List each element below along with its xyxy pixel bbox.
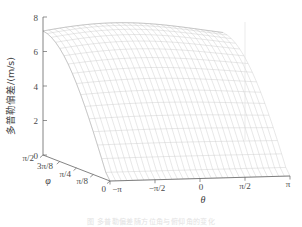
theta-axis-label: θ	[201, 194, 206, 205]
theta-tick-label-0: 0	[199, 182, 204, 192]
figure-caption: 图 多普勒偏差随方位角与俯仰角的变化	[0, 217, 302, 227]
z-axis-label: 多普勒偏差/(m/s)	[5, 57, 16, 135]
phi-tick-label-pi-over-4: π/4	[59, 169, 71, 179]
z-tick-label-4: 4	[34, 82, 39, 92]
phi-tick-label-pi-over-8: π/8	[76, 176, 88, 186]
z-tick-label-8: 8	[34, 13, 39, 23]
z-tick-label-6: 6	[34, 47, 39, 57]
phi-tick-label-3pi-over-8: 3π/8	[37, 161, 54, 171]
phi-tick-label-0: 0	[102, 184, 107, 194]
surface-mesh	[43, 23, 290, 181]
phi-tick-label-pi-over-2: π/2	[22, 153, 34, 163]
theta-tick-label-pi-over-2: π/2	[239, 181, 251, 191]
z-tick-label-0: 0	[34, 151, 39, 161]
theta-tick-label-pi: π	[286, 179, 291, 189]
theta-tick-label-neg-pi-over-2: −π/2	[149, 183, 166, 193]
plot-svg: 8 6 4 2 0 多普勒偏差/(m/s) π/2 3π/8 π/4 π/8 0…	[0, 0, 302, 227]
z-tick-label-2: 2	[34, 116, 39, 126]
surface-plot-figure: 8 6 4 2 0 多普勒偏差/(m/s) π/2 3π/8 π/4 π/8 0…	[0, 0, 302, 227]
theta-tick-label-neg-pi: −π	[112, 184, 122, 194]
z-axis-ticks	[43, 17, 47, 155]
phi-axis-label: φ	[45, 175, 51, 186]
